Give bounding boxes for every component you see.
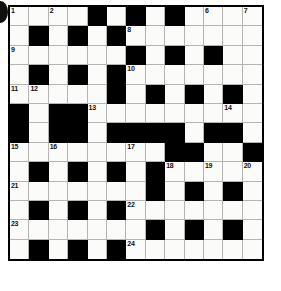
grid-open-cell[interactable]: 1 bbox=[10, 7, 29, 26]
grid-open-cell[interactable] bbox=[49, 201, 68, 220]
grid-open-cell[interactable] bbox=[243, 201, 262, 220]
grid-open-cell[interactable]: 13 bbox=[88, 104, 107, 123]
grid-open-cell[interactable] bbox=[107, 182, 126, 201]
grid-open-cell[interactable] bbox=[29, 143, 48, 162]
grid-open-cell[interactable] bbox=[29, 7, 48, 26]
grid-open-cell[interactable] bbox=[29, 220, 48, 239]
grid-open-cell[interactable] bbox=[243, 85, 262, 104]
grid-open-cell[interactable] bbox=[107, 143, 126, 162]
grid-open-cell[interactable] bbox=[204, 65, 223, 84]
grid-open-cell[interactable]: 8 bbox=[126, 26, 145, 45]
grid-open-cell[interactable] bbox=[10, 162, 29, 181]
grid-open-cell[interactable]: 16 bbox=[49, 143, 68, 162]
grid-open-cell[interactable] bbox=[88, 162, 107, 181]
grid-open-cell[interactable] bbox=[223, 26, 242, 45]
grid-open-cell[interactable] bbox=[68, 220, 87, 239]
grid-open-cell[interactable] bbox=[49, 85, 68, 104]
grid-open-cell[interactable] bbox=[29, 123, 48, 142]
grid-open-cell[interactable]: 7 bbox=[243, 7, 262, 26]
grid-open-cell[interactable] bbox=[10, 26, 29, 45]
grid-open-cell[interactable] bbox=[29, 182, 48, 201]
grid-open-cell[interactable] bbox=[165, 201, 184, 220]
grid-open-cell[interactable] bbox=[185, 240, 204, 259]
grid-open-cell[interactable]: 18 bbox=[165, 162, 184, 181]
grid-open-cell[interactable] bbox=[68, 7, 87, 26]
grid-open-cell[interactable] bbox=[146, 26, 165, 45]
grid-open-cell[interactable] bbox=[88, 143, 107, 162]
grid-open-cell[interactable] bbox=[165, 182, 184, 201]
grid-open-cell[interactable] bbox=[88, 85, 107, 104]
grid-open-cell[interactable] bbox=[223, 7, 242, 26]
grid-open-cell[interactable] bbox=[243, 182, 262, 201]
grid-open-cell[interactable] bbox=[185, 162, 204, 181]
grid-open-cell[interactable] bbox=[146, 46, 165, 65]
grid-open-cell[interactable] bbox=[88, 65, 107, 84]
grid-open-cell[interactable] bbox=[29, 104, 48, 123]
grid-open-cell[interactable] bbox=[146, 201, 165, 220]
grid-open-cell[interactable]: 14 bbox=[223, 104, 242, 123]
grid-open-cell[interactable] bbox=[204, 104, 223, 123]
grid-open-cell[interactable] bbox=[107, 7, 126, 26]
grid-open-cell[interactable]: 15 bbox=[10, 143, 29, 162]
grid-open-cell[interactable] bbox=[204, 240, 223, 259]
grid-open-cell[interactable] bbox=[49, 182, 68, 201]
grid-open-cell[interactable] bbox=[68, 182, 87, 201]
grid-open-cell[interactable] bbox=[165, 240, 184, 259]
grid-open-cell[interactable]: 24 bbox=[126, 240, 145, 259]
grid-open-cell[interactable] bbox=[49, 65, 68, 84]
grid-open-cell[interactable] bbox=[126, 104, 145, 123]
grid-open-cell[interactable] bbox=[165, 85, 184, 104]
grid-open-cell[interactable] bbox=[204, 85, 223, 104]
grid-open-cell[interactable] bbox=[243, 104, 262, 123]
grid-open-cell[interactable] bbox=[107, 104, 126, 123]
grid-open-cell[interactable]: 10 bbox=[126, 65, 145, 84]
grid-open-cell[interactable] bbox=[49, 162, 68, 181]
grid-open-cell[interactable] bbox=[165, 220, 184, 239]
grid-open-cell[interactable] bbox=[243, 46, 262, 65]
grid-open-cell[interactable] bbox=[223, 65, 242, 84]
grid-open-cell[interactable] bbox=[126, 85, 145, 104]
grid-open-cell[interactable]: 9 bbox=[10, 46, 29, 65]
grid-open-cell[interactable] bbox=[68, 85, 87, 104]
grid-open-cell[interactable] bbox=[223, 240, 242, 259]
grid-open-cell[interactable] bbox=[185, 65, 204, 84]
grid-open-cell[interactable]: 11 bbox=[10, 85, 29, 104]
grid-open-cell[interactable]: 6 bbox=[204, 7, 223, 26]
grid-open-cell[interactable] bbox=[146, 65, 165, 84]
grid-open-cell[interactable] bbox=[49, 240, 68, 259]
grid-open-cell[interactable] bbox=[88, 240, 107, 259]
grid-open-cell[interactable]: 17 bbox=[126, 143, 145, 162]
grid-open-cell[interactable] bbox=[204, 143, 223, 162]
grid-open-cell[interactable]: 12 bbox=[29, 85, 48, 104]
grid-open-cell[interactable] bbox=[68, 46, 87, 65]
grid-open-cell[interactable]: 22 bbox=[126, 201, 145, 220]
grid-open-cell[interactable] bbox=[185, 46, 204, 65]
grid-open-cell[interactable] bbox=[88, 182, 107, 201]
grid-open-cell[interactable] bbox=[88, 220, 107, 239]
grid-open-cell[interactable] bbox=[146, 104, 165, 123]
grid-open-cell[interactable] bbox=[243, 240, 262, 259]
grid-open-cell[interactable] bbox=[204, 220, 223, 239]
grid-open-cell[interactable] bbox=[126, 162, 145, 181]
grid-open-cell[interactable] bbox=[223, 162, 242, 181]
grid-open-cell[interactable] bbox=[146, 7, 165, 26]
grid-open-cell[interactable] bbox=[165, 65, 184, 84]
grid-open-cell[interactable] bbox=[10, 65, 29, 84]
grid-open-cell[interactable] bbox=[10, 240, 29, 259]
grid-open-cell[interactable] bbox=[88, 26, 107, 45]
grid-open-cell[interactable] bbox=[107, 220, 126, 239]
grid-open-cell[interactable] bbox=[165, 104, 184, 123]
grid-open-cell[interactable]: 23 bbox=[10, 220, 29, 239]
grid-open-cell[interactable] bbox=[185, 7, 204, 26]
grid-open-cell[interactable] bbox=[146, 143, 165, 162]
grid-open-cell[interactable] bbox=[165, 26, 184, 45]
grid-open-cell[interactable] bbox=[243, 26, 262, 45]
grid-open-cell[interactable] bbox=[223, 201, 242, 220]
grid-open-cell[interactable] bbox=[204, 201, 223, 220]
grid-open-cell[interactable] bbox=[10, 201, 29, 220]
grid-open-cell[interactable] bbox=[146, 240, 165, 259]
grid-open-cell[interactable] bbox=[68, 143, 87, 162]
grid-open-cell[interactable] bbox=[88, 123, 107, 142]
grid-open-cell[interactable] bbox=[126, 182, 145, 201]
grid-open-cell[interactable] bbox=[49, 46, 68, 65]
